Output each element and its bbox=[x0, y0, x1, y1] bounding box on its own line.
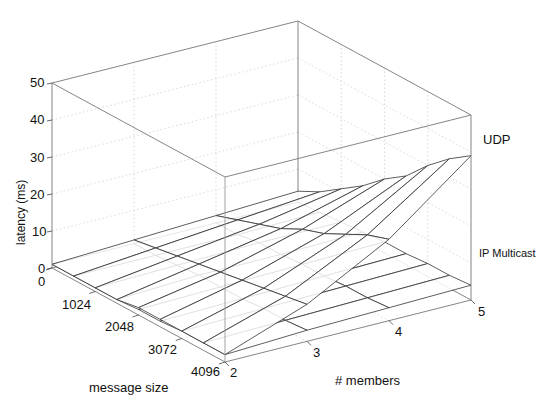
y-axis-title: # members bbox=[335, 373, 400, 388]
z-tick-10: 10 bbox=[32, 224, 46, 239]
surface-chart bbox=[0, 0, 547, 409]
z-tick-40: 40 bbox=[30, 112, 44, 127]
x-axis-title: message size bbox=[89, 380, 168, 395]
udp-label: UDP bbox=[483, 132, 510, 147]
x-tick-3072: 3072 bbox=[148, 342, 177, 357]
y-tick-5: 5 bbox=[478, 304, 485, 319]
x-tick-0: 0 bbox=[38, 274, 45, 289]
x-tick-2048: 2048 bbox=[105, 319, 134, 334]
z-axis-title: latency (ms) bbox=[14, 180, 28, 245]
z-tick-30: 30 bbox=[30, 150, 44, 165]
y-tick-2: 2 bbox=[230, 365, 237, 380]
ip-multicast-label: IP Multicast bbox=[479, 247, 536, 259]
x-tick-1024: 1024 bbox=[62, 297, 91, 312]
y-tick-4: 4 bbox=[395, 324, 402, 339]
y-tick-3: 3 bbox=[313, 345, 320, 360]
z-tick-20: 20 bbox=[30, 187, 44, 202]
x-tick-4096: 4096 bbox=[191, 364, 220, 379]
z-tick-50: 50 bbox=[30, 75, 44, 90]
